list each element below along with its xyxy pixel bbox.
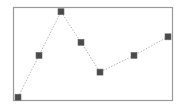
data-point-marker xyxy=(97,69,103,75)
data-point-marker xyxy=(78,39,84,45)
data-point-marker xyxy=(131,52,137,58)
data-point-marker xyxy=(58,9,64,15)
data-point-marker xyxy=(165,34,171,40)
data-point-marker xyxy=(36,52,42,58)
data-point-marker xyxy=(15,94,21,100)
line-chart xyxy=(0,0,181,109)
data-markers xyxy=(15,9,171,101)
